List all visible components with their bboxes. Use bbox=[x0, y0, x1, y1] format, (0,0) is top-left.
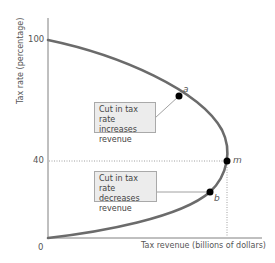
annotation-upper-line2: rate increases bbox=[99, 115, 151, 135]
leader-line-a bbox=[155, 96, 179, 118]
annotation-upper-line3: revenue bbox=[99, 135, 151, 145]
point-label-b: b bbox=[214, 193, 220, 203]
annotation-lower-line1: Cut in tax bbox=[99, 174, 152, 184]
y-axis-label: Tax rate (percentage) bbox=[16, 18, 25, 104]
point-label-m: m bbox=[233, 155, 242, 165]
origin-label: 0 bbox=[38, 242, 43, 252]
point-b bbox=[207, 189, 214, 196]
annotation-lower-line2: rate decreases bbox=[99, 184, 152, 204]
annotation-cut-decreases-revenue: Cut in tax rate decreases revenue bbox=[94, 171, 157, 202]
y-tick-40: 40 bbox=[33, 155, 44, 165]
annotation-lower-line3: revenue bbox=[99, 204, 152, 214]
point-m bbox=[224, 158, 231, 165]
annotation-upper-line1: Cut in tax bbox=[99, 105, 151, 115]
point-a bbox=[176, 93, 183, 100]
y-tick-100: 100 bbox=[28, 34, 44, 44]
annotation-cut-increases-revenue: Cut in tax rate increases revenue bbox=[94, 102, 156, 133]
x-axis-label: Tax revenue (billions of dollars) bbox=[141, 241, 266, 250]
point-label-a: a bbox=[183, 84, 189, 94]
